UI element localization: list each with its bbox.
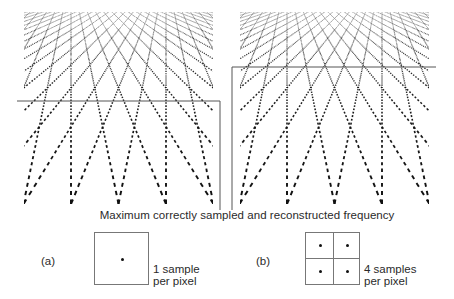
panel-b-note-line2: per pixel — [364, 275, 416, 287]
panel-a-label: (a) — [41, 255, 55, 267]
panel-a-note: 1 sample per pixel — [153, 263, 200, 287]
sample-point — [319, 244, 322, 247]
sample-point — [121, 258, 124, 261]
panel-b-note: 4 samples per pixel — [364, 263, 416, 287]
sample-point — [319, 270, 322, 273]
figure-caption: Maximum correctly sampled and reconstruc… — [0, 209, 454, 221]
perspective-texture-panel-a — [0, 0, 454, 299]
pixel-box-1-sample — [94, 232, 149, 285]
subpixel-divider-horizontal — [306, 258, 359, 259]
sample-point — [346, 270, 349, 273]
pixel-box-4-samples — [305, 232, 360, 285]
panel-a-note-line2: per pixel — [153, 275, 200, 287]
panel-b-note-line1: 4 samples — [364, 263, 416, 275]
sample-point — [346, 244, 349, 247]
panel-b-label: (b) — [256, 255, 270, 267]
panel-a-note-line1: 1 sample — [153, 263, 200, 275]
